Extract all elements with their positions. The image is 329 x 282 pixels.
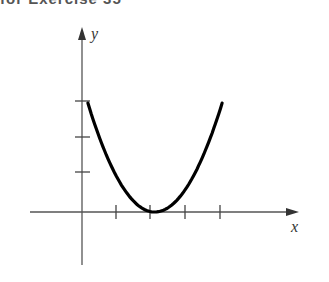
y-axis-arrow-icon bbox=[78, 27, 86, 40]
parabola-curve bbox=[88, 103, 222, 212]
x-axis-arrow-icon bbox=[286, 208, 299, 216]
x-axis-label: x bbox=[290, 218, 298, 235]
parabola-chart: y x bbox=[0, 0, 329, 282]
y-axis-label: y bbox=[89, 25, 99, 43]
